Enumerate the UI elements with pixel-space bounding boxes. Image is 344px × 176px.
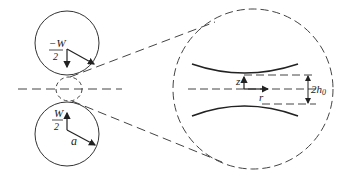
bottom-load-label-den: 2 <box>54 121 59 132</box>
lower-sphere <box>35 102 99 166</box>
contact-diagram: −W 2 W 2 a z r 2h0 <box>0 0 344 176</box>
gap-label: 2h0 <box>311 83 326 97</box>
tangent-line-top <box>70 22 215 77</box>
lower-surface-curve <box>192 106 298 116</box>
upper-surface-curve <box>192 64 298 73</box>
gap-label-sub: 0 <box>322 88 326 97</box>
gap-label-main: 2h <box>311 83 323 95</box>
top-load-label-num: −W <box>49 37 66 49</box>
top-load-label-den: 2 <box>53 51 58 62</box>
tangent-line-bottom <box>72 101 222 162</box>
z-axis-label: z <box>235 75 241 87</box>
radius-label: a <box>71 134 77 148</box>
r-axis-label: r <box>259 91 264 103</box>
top-radius-arrow <box>67 49 94 64</box>
bottom-load-label-num: W <box>54 107 64 119</box>
